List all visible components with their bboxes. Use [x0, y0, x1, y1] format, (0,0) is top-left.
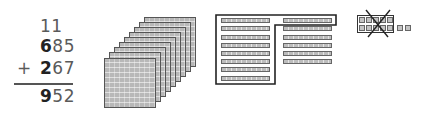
cross-out-icon: [0, 0, 423, 114]
